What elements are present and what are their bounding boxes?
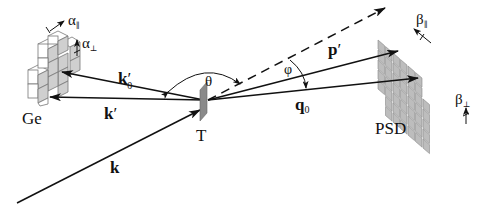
k0-prime-arrow bbox=[62, 72, 204, 100]
alpha-par-label: α∥ bbox=[68, 12, 80, 30]
forward-beam-dashed-arrow bbox=[208, 8, 385, 100]
theta-label: θ bbox=[205, 73, 212, 89]
beta-par-label: β∥ bbox=[416, 11, 427, 29]
ge-label: Ge bbox=[22, 109, 42, 128]
k-label: k bbox=[110, 158, 120, 177]
k-incident-arrow bbox=[17, 110, 200, 203]
alpha-perp-label: α⊥ bbox=[82, 35, 97, 53]
ge-detector-array: α∥ α⊥ bbox=[28, 12, 97, 106]
p-prime-label: p′ bbox=[328, 40, 341, 59]
scattering-diagram: α∥ α⊥ Ge β∥ β⊥ PSD k k′0 k′ T p′ q0 θ φ bbox=[0, 0, 485, 213]
beta-perp-label: β⊥ bbox=[455, 91, 470, 109]
q0-label: q0 bbox=[295, 95, 309, 115]
k-prime-arrow bbox=[50, 97, 204, 100]
k-prime-label: k′ bbox=[104, 104, 117, 123]
alpha-par-arrow bbox=[50, 21, 64, 31]
phi-arc bbox=[290, 60, 306, 88]
k0-prime-label: k′0 bbox=[118, 69, 132, 91]
target-label: T bbox=[196, 126, 207, 145]
psd-label: PSD bbox=[375, 119, 406, 138]
phi-label: φ bbox=[284, 62, 292, 77]
